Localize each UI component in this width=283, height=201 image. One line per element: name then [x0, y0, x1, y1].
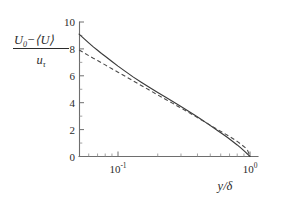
- y-axis-tick-labels: 0246810: [64, 16, 76, 163]
- x-tick-exponent-0: -1: [120, 161, 126, 170]
- x-tick-exponent-1: 0: [254, 161, 258, 170]
- series-velocity-defect-data: [79, 34, 250, 156]
- svg-text:10-1: 10-1: [109, 161, 126, 175]
- x-axis-tick-labels: 10-1 100: [109, 161, 257, 175]
- y-title-meanU: ⟨U⟩: [35, 33, 54, 47]
- x-axis-ticks: [89, 152, 250, 157]
- y-title-utau-sub: τ: [43, 60, 47, 69]
- y-tick-label: 10: [64, 16, 76, 28]
- x-tick-mantissa-0: 10: [109, 163, 121, 175]
- x-axis-title: y/δ: [216, 179, 233, 193]
- svg-text:100: 100: [243, 161, 258, 175]
- y-title-minus: −: [27, 33, 35, 47]
- y-tick-label: 4: [70, 97, 76, 109]
- y-axis-ticks: [80, 22, 85, 157]
- y-tick-label: 2: [70, 124, 76, 136]
- series-log-law-fit: [79, 50, 250, 157]
- velocity-defect-chart: 0246810 10-1 100 U0−⟨U⟩ uτ y/δ: [0, 0, 283, 201]
- y-axis-title-denominator: uτ: [36, 53, 46, 69]
- y-tick-label: 0: [70, 151, 76, 163]
- y-tick-label: 8: [70, 43, 76, 55]
- y-axis-title-numerator: U0−⟨U⟩: [14, 33, 55, 49]
- x-tick-mantissa-1: 10: [243, 163, 255, 175]
- y-tick-label: 6: [70, 70, 76, 82]
- axis-frame: [79, 22, 258, 157]
- y-axis-title: U0−⟨U⟩ uτ: [13, 33, 69, 69]
